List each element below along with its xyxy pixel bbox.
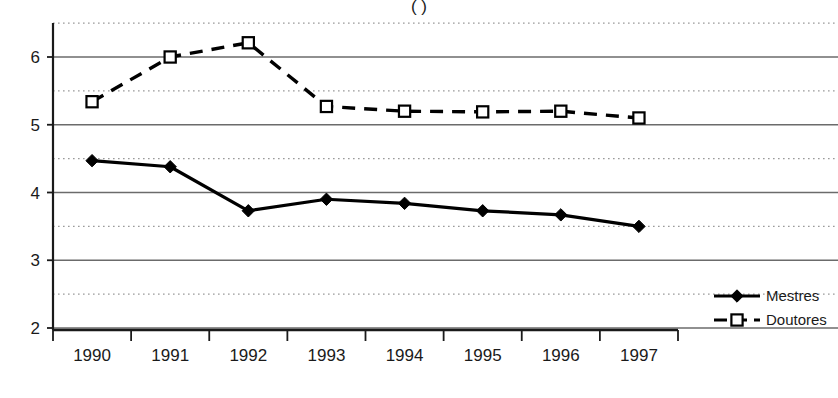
chart-container: ( ) 23456 199019911992199319941995199619…: [0, 0, 838, 398]
data-point-marker: [555, 106, 566, 117]
legend-label: Mestres: [766, 287, 819, 304]
x-tick-label: 1996: [542, 346, 580, 365]
data-point-marker: [165, 51, 176, 62]
data-point-marker: [86, 96, 97, 107]
line-chart: ( ) 23456 199019911992199319941995199619…: [0, 0, 838, 398]
x-tick-label: 1991: [151, 346, 189, 365]
x-tick-label: 1990: [73, 346, 111, 365]
chart-title-fragment: ( ): [411, 0, 427, 16]
legend-marker-square-icon: [731, 314, 742, 325]
y-tick-label: 3: [31, 251, 40, 270]
data-point-marker: [321, 101, 332, 112]
x-tick-label: 1993: [308, 346, 346, 365]
x-tick-label: 1995: [464, 346, 502, 365]
legend-label: Doutores: [766, 311, 827, 328]
chart-background: [0, 0, 838, 398]
legend-item-doutores[interactable]: Doutores: [714, 311, 827, 328]
y-tick-label: 2: [31, 319, 40, 338]
data-point-marker: [477, 106, 488, 117]
x-tick-label: 1992: [229, 346, 267, 365]
data-point-marker: [243, 37, 254, 48]
data-point-marker: [399, 106, 410, 117]
y-tick-label: 6: [31, 48, 40, 67]
x-tick-label: 1997: [620, 346, 658, 365]
x-tick-label: 1994: [386, 346, 424, 365]
y-tick-label: 4: [31, 184, 40, 203]
y-tick-label: 5: [31, 116, 40, 135]
data-point-marker: [633, 112, 644, 123]
